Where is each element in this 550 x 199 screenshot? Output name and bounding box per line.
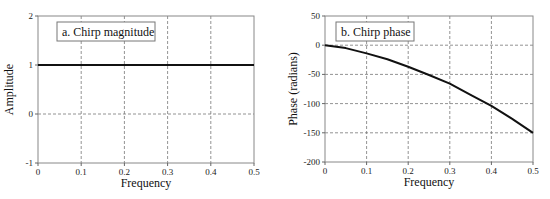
y-tick-label: -150 <box>304 128 321 138</box>
x-tick-label: 0.5 <box>527 166 539 176</box>
y-axis-label: Amplitude <box>2 64 16 115</box>
data-line <box>325 45 533 133</box>
y-tick-label: 50 <box>311 11 321 21</box>
x-tick-label: 0.5 <box>248 167 260 177</box>
x-tick-label: 0.4 <box>205 167 217 177</box>
x-tick-label: 0 <box>36 167 41 177</box>
x-tick-label: 0.1 <box>76 167 87 177</box>
x-tick-label: 0.1 <box>361 166 372 176</box>
y-tick-label: 0 <box>29 109 34 119</box>
panel-title: a. Chirp magnitude <box>62 25 154 39</box>
y-tick-label: 1 <box>29 60 34 70</box>
chart-figure: 00.10.20.30.40.5-1012a. Chirp magnitudeF… <box>0 0 550 199</box>
y-tick-label: -200 <box>304 157 321 167</box>
y-tick-label: -50 <box>308 69 320 79</box>
y-tick-label: -100 <box>304 99 321 109</box>
y-tick-label: 2 <box>29 11 34 21</box>
chart-panel-phase: 00.10.20.30.40.5-200-150-100-50050b. Chi… <box>286 11 539 189</box>
y-tick-label: -1 <box>26 158 34 168</box>
y-axis-label: Phase (radians) <box>286 52 300 126</box>
x-tick-label: 0 <box>323 166 328 176</box>
chart-panel-magnitude: 00.10.20.30.40.5-1012a. Chirp magnitudeF… <box>2 11 260 190</box>
y-tick-label: 0 <box>316 40 321 50</box>
panel-title: b. Chirp phase <box>341 25 411 39</box>
x-axis-label: Frequency <box>121 176 172 190</box>
x-tick-label: 0.4 <box>486 166 498 176</box>
x-axis-label: Frequency <box>404 175 455 189</box>
